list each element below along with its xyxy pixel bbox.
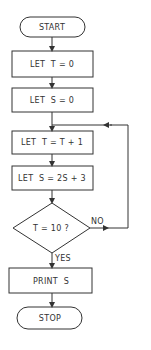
let-s-update-label: LET S = 2S + 3 (18, 174, 86, 183)
let-s-0-label: LET S = 0 (30, 96, 74, 105)
start-label: START (39, 23, 65, 32)
stop-label: STOP (39, 314, 61, 323)
let-t-0-label: LET T = 0 (30, 60, 74, 69)
decision-label: T = 10 ? (32, 224, 69, 233)
flowchart: START LET T = 0 LET S = 0 LET T = T + 1 … (0, 0, 151, 350)
no-label: NO (91, 217, 104, 226)
yes-label: YES (54, 254, 71, 263)
let-t-increment-label: LET T = T + 1 (21, 138, 83, 147)
loop-back-line (104, 125, 128, 228)
print-s-label: PRINT S (33, 277, 69, 286)
